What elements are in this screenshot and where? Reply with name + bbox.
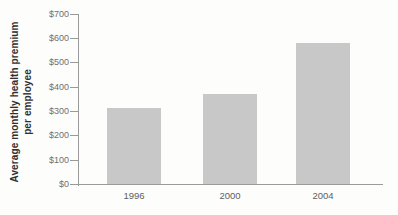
x-category-label: 2004	[296, 190, 350, 201]
bar-1996	[107, 108, 161, 184]
x-category-label: 2000	[203, 190, 257, 201]
y-axis-title-line2: per employee	[21, 69, 32, 135]
bar-chart-figure: Average monthly health premium per emplo…	[0, 0, 398, 215]
bar-2004	[296, 43, 350, 184]
y-tick-label: $400	[30, 82, 69, 93]
y-tick-mark	[70, 184, 78, 185]
x-category-label: 1996	[107, 190, 161, 201]
y-tick-mark	[70, 87, 78, 88]
y-tick-label: $200	[30, 130, 69, 141]
x-axis-line	[78, 184, 383, 185]
y-tick-mark	[70, 62, 78, 63]
y-tick-label: $300	[30, 106, 69, 117]
bar-2000	[203, 94, 257, 184]
y-axis-line	[78, 14, 79, 186]
y-tick-mark	[70, 135, 78, 136]
y-tick-mark	[70, 14, 78, 15]
y-tick-label: $600	[30, 33, 69, 44]
y-tick-label: $100	[30, 155, 69, 166]
y-tick-label: $0	[30, 179, 69, 190]
y-tick-label: $500	[30, 57, 69, 68]
y-tick-mark	[70, 38, 78, 39]
y-tick-label: $700	[30, 9, 69, 20]
y-axis-title-line1: Average monthly health premium	[9, 22, 20, 183]
y-tick-mark	[70, 160, 78, 161]
y-tick-mark	[70, 111, 78, 112]
